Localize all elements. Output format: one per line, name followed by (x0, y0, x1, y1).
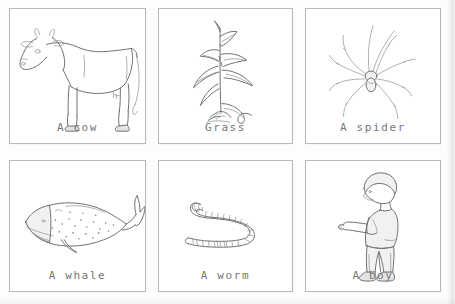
card-caption-spider: A spider (306, 121, 440, 134)
card-caption-whale: A whale (10, 269, 145, 282)
card-caption-cow: A cow (10, 121, 145, 134)
picture-card-boy[interactable]: A boy (305, 160, 441, 292)
picture-card-worm[interactable]: A worm (158, 160, 293, 292)
card-caption-worm: A worm (159, 269, 292, 282)
picture-card-spider[interactable]: A spider (305, 8, 441, 144)
picture-card-whale[interactable]: A whale (9, 160, 146, 292)
card-caption-grass: Grass (159, 121, 292, 134)
page-edge-shadow (446, 0, 455, 304)
picture-card-grass[interactable]: Grass (158, 8, 293, 144)
page-bottom-shadow (0, 296, 455, 304)
worksheet-sheet: A cow (0, 0, 455, 304)
card-caption-boy: A boy (306, 269, 440, 282)
picture-card-cow[interactable]: A cow (9, 8, 146, 144)
